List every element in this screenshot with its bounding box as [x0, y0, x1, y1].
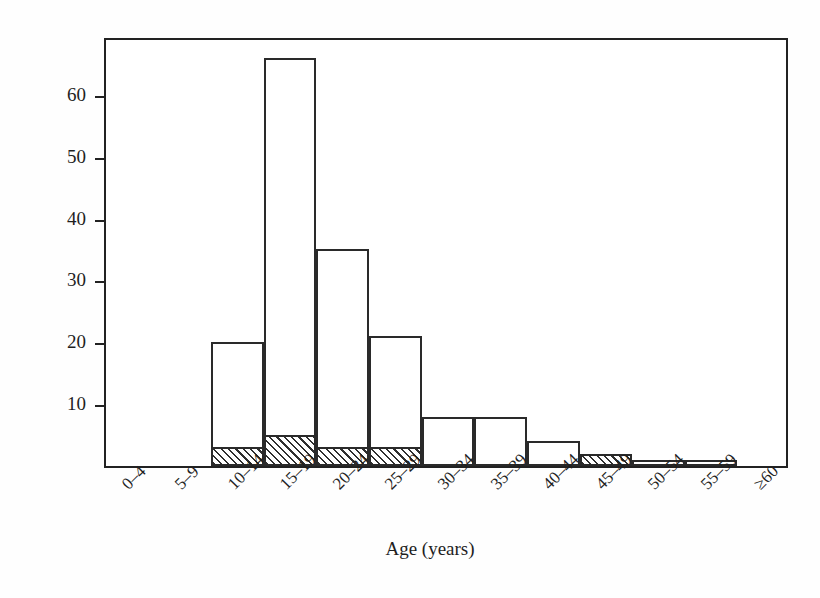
- y-axis-tick-label: 20: [34, 331, 86, 353]
- histogram-figure: Cases (no.) 102030405060 0–45–910–1415–1…: [0, 0, 820, 598]
- x-axis-title: Age (years): [240, 538, 620, 560]
- bar-total-2024: [316, 249, 369, 466]
- y-axis-tick-label: 40: [34, 208, 86, 230]
- y-axis-tick-label: 30: [34, 269, 86, 291]
- bar-total-1519: [264, 58, 317, 466]
- y-axis-tick-label: 10: [34, 393, 86, 415]
- y-axis-tick-label: 50: [34, 146, 86, 168]
- bars-group: [106, 40, 786, 466]
- plot-area: [104, 38, 788, 468]
- y-axis-tick-label: 60: [34, 84, 86, 106]
